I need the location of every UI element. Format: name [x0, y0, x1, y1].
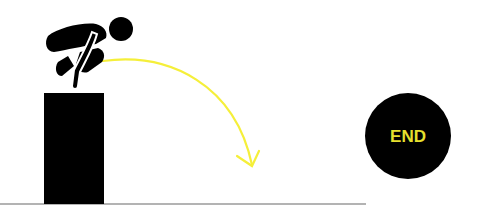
platform-box — [44, 93, 104, 204]
end-marker: END — [365, 93, 451, 179]
end-label: END — [390, 127, 426, 146]
jumper-figure-icon — [46, 17, 133, 89]
jump-diagram: END — [0, 0, 483, 216]
trajectory-arrow — [103, 60, 259, 166]
